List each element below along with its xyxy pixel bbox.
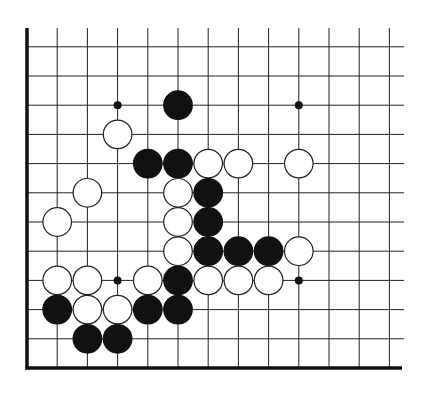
black-stone [164,91,193,120]
black-stone [194,237,223,266]
black-stone [164,149,193,178]
black-stone [73,325,102,354]
black-stone [194,179,223,208]
white-stone [194,149,223,178]
black-stone [43,295,72,324]
white-stone [43,266,72,295]
hoshi-point [295,101,303,109]
black-stone [103,325,132,354]
white-stone [73,179,102,208]
white-stone [164,179,193,208]
white-stone [285,237,314,266]
white-stone [103,295,132,324]
white-stone [285,149,314,178]
white-stone [43,208,72,237]
white-stone [224,149,253,178]
white-stone [194,266,223,295]
hoshi-point [114,101,122,109]
hoshi-point [295,276,303,284]
white-stone [134,266,163,295]
black-stone [164,266,193,295]
hoshi-point [114,276,122,284]
white-stone [254,266,283,295]
black-stone [134,149,163,178]
white-stone [73,266,102,295]
white-stone [103,120,132,149]
black-stone [164,295,193,324]
white-stone [164,208,193,237]
white-stone [164,237,193,266]
black-stone [254,237,283,266]
white-stone [73,295,102,324]
white-stone [224,266,253,295]
black-stone [134,295,163,324]
go-board[interactable] [0,0,427,396]
black-stone [194,208,223,237]
black-stone [224,237,253,266]
